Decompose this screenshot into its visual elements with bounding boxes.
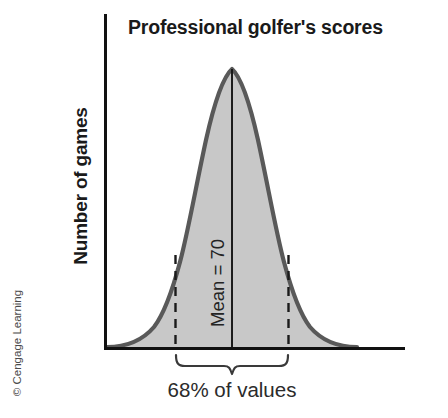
page-title: Professional golfer's scores <box>128 16 383 39</box>
interval-caption-label: 68% of values <box>82 378 382 402</box>
y-axis-label: Number of games <box>70 101 92 271</box>
interval-brace <box>176 355 288 374</box>
normal-distribution-chart <box>0 0 448 418</box>
mean-annotation-label: Mean = 70 <box>207 228 229 338</box>
copyright-label: © Cengage Learning <box>11 278 23 408</box>
figure-canvas: Professional golfer's scores Number of g… <box>0 0 448 418</box>
